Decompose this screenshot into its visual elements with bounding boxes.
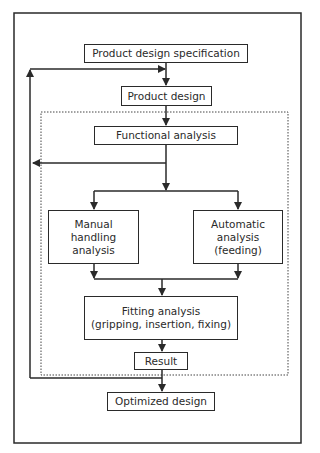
node-label: Optimized design <box>115 395 207 408</box>
node-product-design: Product design <box>121 86 212 106</box>
node-label-line: Automatic <box>211 218 265 231</box>
node-label-line: handling <box>71 231 117 244</box>
node-label-line: analysis <box>217 231 260 244</box>
node-automatic-analysis: Automatic analysis (feeding) <box>193 210 283 264</box>
node-label-line: (feeding) <box>214 244 262 257</box>
node-label-line: analysis <box>72 244 115 257</box>
node-label-line: Manual <box>74 218 112 231</box>
node-product-design-specification: Product design specification <box>84 44 248 63</box>
node-label: Product design specification <box>92 47 240 60</box>
node-label: Functional analysis <box>116 129 216 142</box>
node-optimized-design: Optimized design <box>107 392 215 411</box>
node-fitting-analysis: Fitting analysis (gripping, insertion, f… <box>84 296 238 340</box>
node-result: Result <box>134 352 188 370</box>
node-label: Result <box>145 355 177 368</box>
node-label: Product design <box>127 90 205 103</box>
node-functional-analysis: Functional analysis <box>94 126 238 145</box>
node-manual-handling-analysis: Manual handling analysis <box>48 210 139 264</box>
node-label-line: Fitting analysis <box>122 305 201 318</box>
node-label-line: (gripping, insertion, fixing) <box>91 318 231 331</box>
